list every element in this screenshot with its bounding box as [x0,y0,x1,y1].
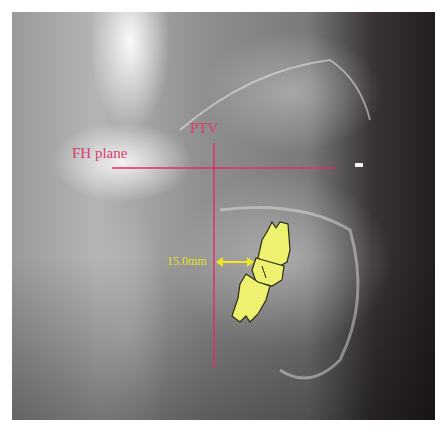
annotation-overlay [0,0,445,432]
distance-label: 15.0mm [167,254,207,269]
white-marker [355,163,363,167]
measurement-arrow [216,257,254,267]
fh-plane-label: FH plane [72,145,127,162]
ptv-label: PTV [190,120,218,137]
